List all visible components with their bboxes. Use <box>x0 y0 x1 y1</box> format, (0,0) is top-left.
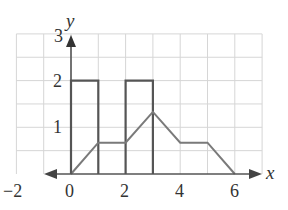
x-axis-label: x <box>265 162 275 183</box>
y-tick-label: 3 <box>54 26 63 46</box>
x-tick-label: −2 <box>3 181 22 201</box>
x-axis-left-arrow-icon <box>44 169 57 179</box>
grid <box>16 34 262 174</box>
x-axis-right-arrow-icon <box>249 169 262 179</box>
y-tick-label: 2 <box>53 71 62 91</box>
chart: x y −2 0 2 4 6 1 2 3 <box>0 0 288 210</box>
x-tick-label: 4 <box>175 181 184 201</box>
x-tick-label: 0 <box>65 181 74 201</box>
y-tick-label: 1 <box>53 117 62 137</box>
y-axis-up-arrow-icon <box>66 35 76 47</box>
x-tick-label: 2 <box>120 181 129 201</box>
y-axis-label: y <box>64 10 75 31</box>
x-tick-label: 6 <box>230 181 239 201</box>
